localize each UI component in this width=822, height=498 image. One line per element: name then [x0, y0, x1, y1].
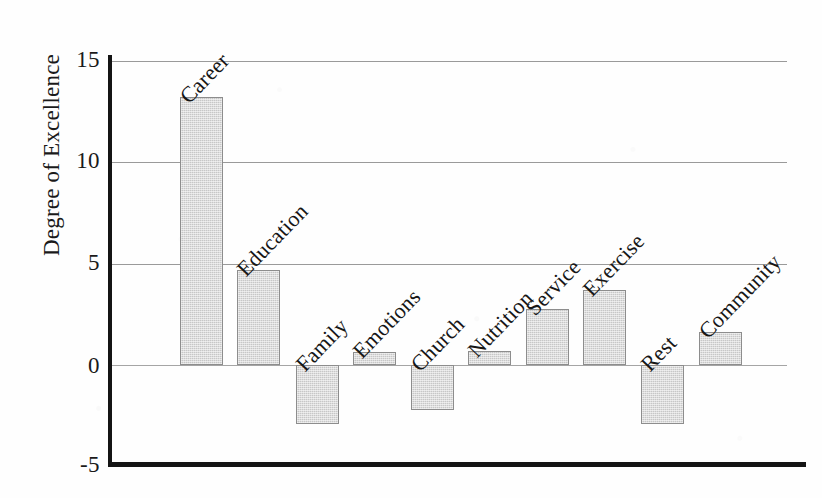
- bar-service: [526, 309, 569, 365]
- bar-career: [180, 97, 223, 365]
- scan-grain-overlay: [0, 0, 822, 498]
- bar-education: [237, 270, 280, 365]
- bar-family: [296, 365, 339, 424]
- y-tick-label-0: 0: [44, 354, 100, 377]
- category-label-education: Education: [233, 199, 312, 280]
- y-axis-line: [108, 55, 112, 467]
- bar-church: [411, 365, 454, 410]
- bar-rest: [641, 365, 684, 424]
- x-axis-line: [108, 462, 806, 467]
- y-tick-label-neg5: -5: [44, 453, 100, 476]
- bar-exercise: [583, 290, 626, 365]
- y-axis-title: Degree of Excellence: [39, 25, 65, 285]
- bar-chart-figure: CareerEducationFamilyEmotionsChurchNutri…: [0, 0, 822, 498]
